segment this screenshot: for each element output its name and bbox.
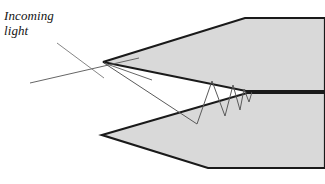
optics-wedge-diagram: Incoming light xyxy=(0,0,325,184)
incoming-light-label: Incoming light xyxy=(4,8,54,38)
